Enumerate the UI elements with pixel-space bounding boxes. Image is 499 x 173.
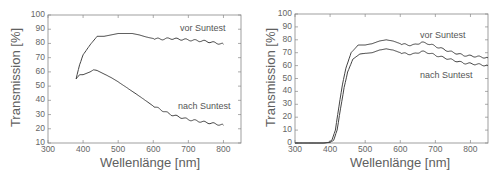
y-tick-label: 30 [21,109,45,119]
annotation-nach-suntest-right: nach Suntest [420,70,473,80]
y-tick-label: 40 [21,94,45,104]
annotation-nach-suntest-left: nach Suntest [178,101,231,111]
x-tick-label: 700 [173,144,203,154]
x-axis-label-left: Wellenlänge [nm] [90,155,210,170]
y-tick-label: 100 [268,8,292,18]
y-tick-label: 50 [268,73,292,83]
y-tick-label: 70 [21,52,45,62]
x-tick-label: 300 [280,144,310,154]
annotation-vor-suntest-right: vor Suntest [420,30,466,40]
y-tick-label: 90 [21,23,45,33]
series-line-nach-suntest [295,49,488,143]
x-tick-label: 500 [103,144,133,154]
y-tick-label: 50 [21,80,45,90]
x-tick-label: 700 [420,144,450,154]
x-tick-label: 600 [138,144,168,154]
y-tick-label: 80 [21,37,45,47]
x-tick-label: 400 [315,144,345,154]
y-tick-label: 60 [268,60,292,70]
y-tick-label: 80 [268,34,292,44]
y-tick-label: 20 [268,111,292,121]
y-tick-label: 20 [21,123,45,133]
x-tick-label: 800 [208,144,238,154]
series-line-vor-suntest [76,34,223,80]
annotation-vor-suntest-left: vor Suntest [180,23,226,33]
y-tick-label: 90 [268,21,292,31]
series-line-vor-suntest [295,40,488,143]
x-tick-label: 600 [385,144,415,154]
y-tick-label: 60 [21,66,45,76]
series-line-nach-suntest [76,70,223,125]
x-tick-label: 800 [455,144,485,154]
x-tick-label: 500 [350,144,380,154]
x-tick-label: 400 [68,144,98,154]
y-tick-label: 100 [21,9,45,19]
y-tick-label: 70 [268,47,292,57]
y-tick-label: 40 [268,85,292,95]
chart-right: Transmission [%] Wellenlänge [nm] 010203… [250,0,499,173]
x-tick-label: 300 [33,144,63,154]
plot-frame [48,15,241,143]
y-tick-label: 30 [268,98,292,108]
y-tick-label: 10 [268,124,292,134]
chart-left: Transmission [%] Wellenlänge [nm] 102030… [0,0,250,173]
x-axis-label-right: Wellenlänge [nm] [340,155,460,170]
